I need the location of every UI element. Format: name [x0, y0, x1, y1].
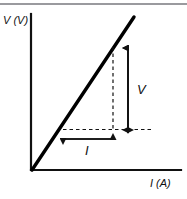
graph-canvas: V (V) I (A) V I — [0, 0, 187, 199]
x-axis-label: I (A) — [150, 177, 171, 189]
y-axis-label: V (V) — [3, 14, 28, 26]
voltage-current-figure: V (V) I (A) V I — [0, 0, 187, 199]
voltage-label: V — [137, 82, 147, 97]
current-label: I — [85, 143, 89, 158]
data-series-line — [32, 17, 134, 170]
